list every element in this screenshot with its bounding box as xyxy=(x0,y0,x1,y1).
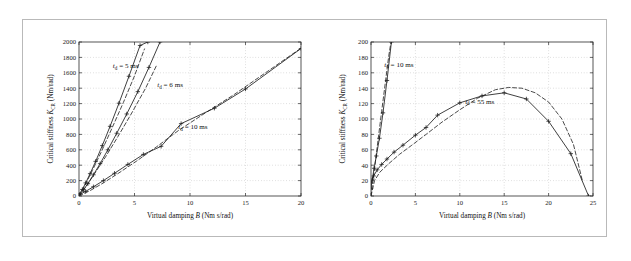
y-tick-label: 0 xyxy=(365,192,369,199)
y-tick-label: 1000 xyxy=(63,115,77,122)
y-axis-title: Critical stiffness KCR (Nm/rad) xyxy=(339,74,348,164)
y-tick-label: 1400 xyxy=(63,85,77,92)
y-tick-label: 60 xyxy=(361,146,368,153)
y-tick-label: 1200 xyxy=(63,100,77,107)
y-axis-title-pre: Critical stiffness xyxy=(339,115,347,164)
x-tick-label: 20 xyxy=(298,199,305,206)
y-tick-label: 2000 xyxy=(63,38,77,45)
series-markers xyxy=(77,46,303,197)
y-tick-label: 400 xyxy=(66,162,77,169)
x-axis-title-post: (Nm s/rad) xyxy=(492,212,526,220)
y-tick-label: 40 xyxy=(361,162,368,169)
y-tick-label: 1800 xyxy=(63,54,77,61)
x-axis-title-pre: Virtual damping xyxy=(439,212,488,220)
figure-frame: 0510152002004006008001000120014001600180… xyxy=(22,19,607,237)
x-axis-title-pre: Virtual damping xyxy=(147,212,196,220)
series-markers xyxy=(369,91,591,199)
y-tick-label: 200 xyxy=(358,38,369,45)
y-tick-label: 120 xyxy=(358,100,369,107)
y-tick-label: 600 xyxy=(66,146,77,153)
x-axis-title: Virtual damping B (Nm s/rad) xyxy=(439,212,526,220)
y-tick-label: 140 xyxy=(358,85,369,92)
y-tick-label: 200 xyxy=(66,177,77,184)
x-tick-label: 5 xyxy=(414,199,418,206)
series-annotation: td = 10 ms xyxy=(178,123,207,132)
annotation-rest: = 6 ms xyxy=(162,81,183,89)
series-annotation: td = 55 ms xyxy=(465,98,494,107)
plot-area xyxy=(77,40,303,197)
y-axis-title: Critical stiffness KCR (Nm/rad) xyxy=(47,74,56,164)
y-tick-label: 800 xyxy=(66,131,77,138)
y-axis-title-pre: Critical stiffness xyxy=(47,115,55,164)
series-annotation: td = 5 ms xyxy=(113,62,139,71)
x-tick-label: 0 xyxy=(369,199,373,206)
x-tick-label: 5 xyxy=(133,199,137,206)
x-tick-label: 15 xyxy=(242,199,249,206)
y-tick-label: 0 xyxy=(73,192,77,199)
chart-panel-left: 0510152002004006008001000120014001600180… xyxy=(23,20,315,236)
x-tick-label: 15 xyxy=(501,199,508,206)
x-tick-label: 0 xyxy=(77,199,81,206)
y-axis-title-post: (Nm/rad) xyxy=(339,74,347,103)
x-axis-title: Virtual damping B (Nm s/rad) xyxy=(147,212,234,220)
y-tick-label: 180 xyxy=(358,54,369,61)
y-tick-label: 160 xyxy=(358,69,369,76)
y-tick-label: 100 xyxy=(358,115,369,122)
annotation-rest: = 55 ms xyxy=(470,98,495,106)
series-annotation: td = 10 ms xyxy=(384,61,413,70)
annotation-rest: = 5 ms xyxy=(117,62,138,70)
y-tick-label: 1600 xyxy=(63,69,77,76)
annotation-rest: = 10 ms xyxy=(183,123,208,131)
x-tick-label: 10 xyxy=(187,199,194,206)
x-tick-label: 20 xyxy=(545,199,552,206)
annotation-rest: = 10 ms xyxy=(389,61,414,69)
chart-left: 0510152002004006008001000120014001600180… xyxy=(23,20,315,236)
x-axis-title-post: (Nm s/rad) xyxy=(200,212,234,220)
x-tick-label: 25 xyxy=(590,199,597,206)
x-tick-label: 10 xyxy=(457,199,464,206)
y-tick-label: 80 xyxy=(361,131,368,138)
chart-panel-right: 0510152025020406080100120140160180200Vir… xyxy=(315,20,607,236)
chart-right: 0510152025020406080100120140160180200Vir… xyxy=(315,20,607,236)
y-axis-title-post: (Nm/rad) xyxy=(47,74,55,103)
y-tick-label: 20 xyxy=(361,177,368,184)
series-annotation: td = 6 ms xyxy=(157,81,183,90)
